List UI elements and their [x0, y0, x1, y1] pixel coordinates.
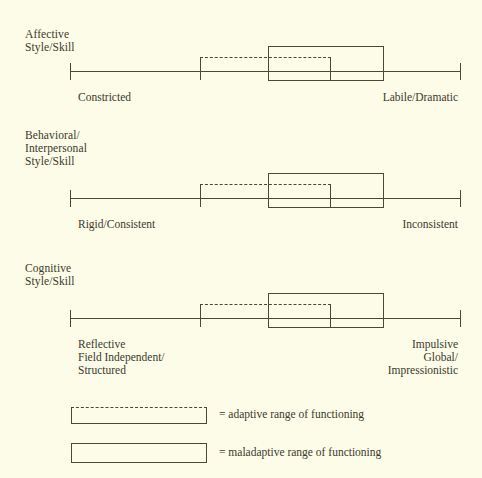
axis-tick-right [460, 310, 461, 327]
pole-label-right-behavioral: Inconsistent [402, 218, 458, 231]
maladaptive-range-box [268, 293, 384, 328]
pole-label-left-affective: Constricted [78, 91, 131, 104]
legend-label-adaptive: = adaptive range of functioning [219, 408, 364, 421]
pole-label-left-behavioral: Rigid/Consistent [78, 218, 155, 231]
axis-tick-right [460, 190, 461, 207]
legend-swatch-maladaptive [71, 443, 207, 463]
continuum-section-affective: Affective Style/Skill Constricted Labile… [0, 0, 482, 120]
axis-tick-left [70, 190, 71, 207]
axis-tick-left [70, 310, 71, 327]
pole-label-right-cognitive: Impulsive Global/ Impressionistic [388, 338, 458, 378]
axis-tick-right [460, 63, 461, 80]
axis-behavioral [0, 171, 482, 211]
legend-label-maladaptive: = maladaptive range of functioning [219, 446, 381, 459]
legend-swatch-adaptive [71, 407, 207, 424]
axis-tick-left [70, 63, 71, 80]
maladaptive-range-box [268, 46, 384, 81]
axis-cognitive [0, 291, 482, 331]
style-skill-continuum-figure: Affective Style/Skill Constricted Labile… [0, 0, 482, 478]
legend: = adaptive range of functioning = malada… [0, 400, 482, 478]
axis-affective [0, 44, 482, 84]
pole-label-left-cognitive: Reflective Field Independent/ Structured [78, 338, 165, 378]
legend-row-adaptive: = adaptive range of functioning [0, 407, 482, 437]
continuum-section-cognitive: Cognitive Style/Skill Reflective Field I… [0, 262, 482, 397]
section-title-behavioral: Behavioral/ Interpersonal Style/Skill [25, 129, 87, 167]
section-title-cognitive: Cognitive Style/Skill [25, 262, 75, 288]
maladaptive-range-box [268, 173, 384, 208]
continuum-section-behavioral: Behavioral/ Interpersonal Style/Skill Ri… [0, 129, 482, 259]
legend-row-maladaptive: = maladaptive range of functioning [0, 443, 482, 473]
pole-label-right-affective: Labile/Dramatic [383, 91, 458, 104]
